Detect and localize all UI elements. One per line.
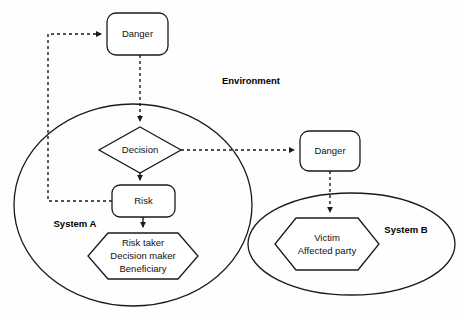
system-b-label: System B [384, 224, 427, 235]
node-victim[interactable]: Victim Affected party [275, 218, 379, 270]
node-danger-top[interactable]: Danger [107, 13, 168, 55]
actors-label-line3: Beneficiary [120, 263, 167, 274]
actors-label-line1: Risk taker [122, 237, 164, 248]
diagram-root: Danger Decision Risk Risk taker Decision… [0, 0, 463, 320]
danger-top-label: Danger [122, 28, 153, 39]
node-danger-right[interactable]: Danger [300, 131, 360, 171]
environment-label: Environment [222, 75, 281, 86]
victim-label-line2: Affected party [298, 245, 357, 256]
system-a-label: System A [54, 218, 97, 229]
diagram-canvas: Danger Decision Risk Risk taker Decision… [0, 0, 463, 320]
edge-risk-to-danger-top [48, 34, 112, 201]
risk-label: Risk [134, 195, 153, 206]
node-risk[interactable]: Risk [112, 185, 175, 217]
node-decision[interactable]: Decision [99, 127, 181, 173]
victim-label-line1: Victim [314, 232, 340, 243]
node-actors[interactable]: Risk taker Decision maker Beneficiary [88, 233, 198, 279]
decision-label: Decision [122, 144, 158, 155]
danger-right-label: Danger [314, 145, 345, 156]
actors-label-line2: Decision maker [110, 250, 175, 261]
